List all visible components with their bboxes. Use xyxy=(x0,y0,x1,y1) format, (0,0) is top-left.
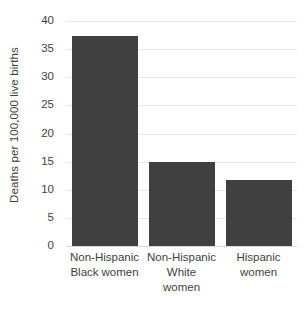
y-axis-tick-label: 25 xyxy=(41,100,54,112)
plot-area xyxy=(66,21,297,246)
y-axis-tick-label: 40 xyxy=(41,15,54,27)
bar xyxy=(226,180,292,246)
x-axis-category-label-line: Hispanic xyxy=(220,250,297,265)
y-axis-tick-label: 30 xyxy=(41,72,54,84)
y-axis-tick-label: 20 xyxy=(41,128,54,140)
x-axis-category-label-line: Non-Hispanic xyxy=(66,250,143,265)
x-axis-category-label: Non-HispanicWhitewomen xyxy=(143,250,220,295)
y-axis-title-text: Deaths per 100,000 live births xyxy=(8,47,20,203)
x-axis-labels: Non-HispanicBlack womenNon-HispanicWhite… xyxy=(66,250,297,310)
x-axis-category-label-line: women xyxy=(220,265,297,280)
y-axis-title: Deaths per 100,000 live births xyxy=(0,0,28,250)
y-axis-tick-labels: 4035302520151050 xyxy=(28,21,60,246)
y-axis-tick-label: 5 xyxy=(48,212,54,224)
bar xyxy=(72,36,138,246)
x-axis-category-label: Non-HispanicBlack women xyxy=(66,250,143,280)
bar-chart: Deaths per 100,000 live births 403530252… xyxy=(0,0,303,312)
cropped-title-remnant xyxy=(0,0,303,4)
gridline xyxy=(66,246,297,247)
bars-group xyxy=(66,21,297,246)
y-axis-tick-label: 15 xyxy=(41,156,54,168)
y-axis-tick-label: 0 xyxy=(48,240,54,252)
x-axis-category-label: Hispanicwomen xyxy=(220,250,297,280)
x-axis-category-label-line: Black women xyxy=(66,265,143,280)
x-axis-category-label-line: Non-Hispanic xyxy=(143,250,220,265)
x-axis-category-label-line: White xyxy=(143,265,220,280)
y-axis-tick-label: 10 xyxy=(41,184,54,196)
x-axis-category-label-line: women xyxy=(143,280,220,295)
bar xyxy=(149,162,215,246)
y-axis-tick-label: 35 xyxy=(41,43,54,55)
